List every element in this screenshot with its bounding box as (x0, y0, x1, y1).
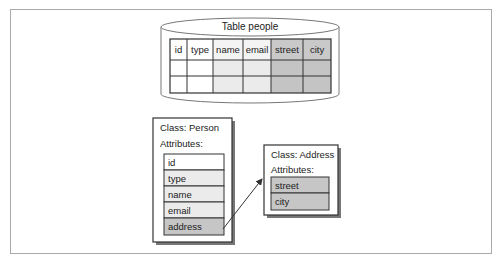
address-attr-street: street (275, 180, 299, 191)
table-grid: id type name email street city (170, 39, 331, 93)
table-people-cylinder: Table people id type name (161, 18, 339, 103)
person-attr-name: name (168, 189, 192, 200)
address-attr-city: city (275, 196, 290, 207)
column-header-city: city (310, 44, 325, 55)
address-attributes-label: Attributes: (271, 164, 314, 175)
person-attr-type: type (168, 173, 186, 184)
person-class-box: Class: Person Attributes: id type name e… (153, 118, 235, 245)
address-class-title: Class: Address (271, 149, 335, 160)
column-header-type: type (191, 44, 209, 55)
address-class-box: Class: Address Attributes: street city (264, 145, 341, 218)
table-title: Table people (222, 21, 279, 32)
column-header-name: name (216, 44, 240, 55)
person-attr-address: address (168, 221, 202, 232)
person-attr-email: email (168, 205, 191, 216)
column-header-email: email (246, 44, 269, 55)
person-class-title: Class: Person (160, 122, 219, 133)
column-header-id: id (175, 44, 182, 55)
column-header-street: street (275, 44, 299, 55)
diagram-canvas: Table people id type name (0, 0, 500, 260)
person-attr-id: id (168, 157, 175, 168)
person-attributes-label: Attributes: (160, 138, 203, 149)
